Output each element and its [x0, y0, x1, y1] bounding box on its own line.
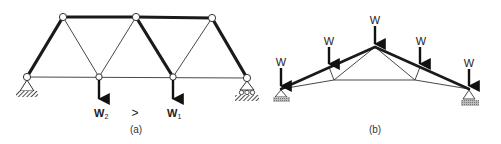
caption-a: (a) [130, 124, 142, 135]
roller-support-icon [235, 81, 259, 101]
load-label-w: W [370, 14, 381, 26]
joint [208, 14, 215, 21]
upper-chord-right [375, 47, 469, 89]
joint [132, 13, 139, 20]
joint [170, 74, 176, 80]
joint [96, 74, 102, 80]
load-label-w: W [276, 56, 287, 68]
caption-b: (b) [369, 124, 381, 135]
top-chord-2 [136, 17, 212, 18]
truss-figure: W2 W1 > (a) W W W [0, 0, 501, 144]
diagonal-t2-b3 [136, 17, 173, 77]
load-label-w2: W2 [94, 107, 108, 120]
load-label-w1: W1 [167, 107, 181, 120]
truss-b: W W W W W (b) [273, 14, 479, 135]
truss-a: W2 W1 > (a) [16, 13, 259, 135]
pin-support-icon [16, 80, 38, 97]
pin-support-icon [273, 90, 290, 102]
load-label-w: W [464, 57, 475, 69]
joint [59, 13, 66, 20]
load-label-w: W [324, 35, 335, 47]
diagonal-t1-b2 [63, 17, 99, 77]
load-label-w: W [416, 35, 427, 47]
pin-support-icon [461, 90, 479, 106]
joint [243, 74, 250, 81]
end-post-left [27, 17, 63, 77]
bottom-chord [27, 77, 247, 78]
diagonal-b3-t3 [173, 18, 212, 77]
end-post-right [212, 18, 247, 78]
greater-than-symbol: > [131, 106, 138, 120]
web-u2-d2 [415, 67, 420, 80]
diagonal-b2-t2 [99, 17, 136, 77]
joint [23, 73, 30, 80]
web-u1-d1 [329, 67, 334, 80]
